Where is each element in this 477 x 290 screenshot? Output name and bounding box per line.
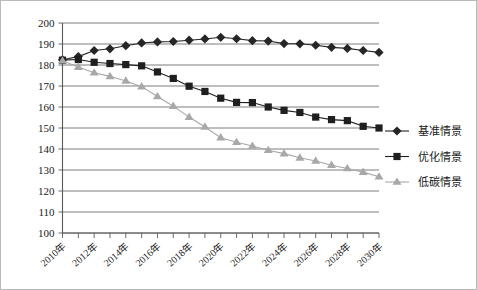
data-point-square [170,75,177,82]
data-point-triangle [169,102,178,109]
legend-label: 优化情景 [418,150,462,163]
y-axis-label: 160 [38,101,55,113]
data-point-triangle [185,112,194,119]
y-axis [59,23,63,233]
y-axis-label: 130 [38,164,55,176]
gridlines [63,23,380,233]
data-point-diamond [169,37,178,46]
data-point-square [296,109,303,116]
data-point-square [122,61,129,68]
y-axis-label: 100 [38,227,55,239]
data-point-square [233,99,240,106]
data-point-diamond [216,33,225,42]
data-point-diamond [295,39,304,48]
data-point-diamond [359,46,368,55]
y-axis-label: 190 [38,38,55,50]
data-point-diamond [90,46,99,55]
y-axis-label: 170 [38,80,55,92]
y-axis-label: 140 [38,143,55,155]
data-point-triangle [216,133,225,140]
data-point-diamond [185,36,194,45]
data-point-square [91,59,98,66]
data-point-square [154,68,161,75]
x-axis-label: 2020年 [196,240,226,269]
data-point-square [344,117,351,124]
x-axis-label: 2026年 [291,240,321,269]
data-point-diamond [279,39,288,48]
series-2 [59,56,383,132]
data-point-diamond [343,44,352,53]
data-point-triangle [200,122,209,129]
data-point-diamond [153,37,162,46]
x-axis [63,233,380,238]
data-point-square [106,60,113,67]
y-axis-label: 150 [38,122,55,134]
data-series-group [58,33,384,180]
data-point-diamond [311,41,320,50]
data-point-diamond [374,48,383,57]
y-axis-label: 110 [38,206,55,218]
data-point-square [138,62,145,69]
data-point-triangle [393,177,402,184]
x-axis-label: 2022年 [227,240,257,269]
y-axis-label: 200 [38,17,55,29]
x-axis-tick-labels: 2010年2012年2014年2016年2018年2020年2022年2024年… [38,240,385,269]
data-point-square [393,153,400,160]
legend-label: 基准情景 [418,125,462,137]
data-point-diamond [121,41,130,50]
data-point-diamond [232,34,241,43]
x-axis-label: 2012年 [69,240,99,269]
x-axis-label: 2028年 [322,240,352,269]
chart-legend: 基准情景优化情景低碳情景 [385,125,462,188]
data-point-square [75,56,82,63]
data-point-square [186,83,193,90]
x-axis-label: 2030年 [354,240,384,269]
data-point-square [201,88,208,95]
data-point-triangle [153,92,162,99]
legend-label: 低碳情景 [418,175,462,188]
data-point-diamond [137,38,146,47]
data-point-diamond [200,34,209,43]
data-point-square [217,95,224,102]
data-point-diamond [105,44,114,53]
x-axis-label: 2014年 [101,240,131,269]
data-point-square [280,107,287,114]
data-point-square [375,124,382,131]
data-point-square [312,113,319,120]
data-point-square [328,116,335,123]
data-point-diamond [392,126,401,135]
data-point-square [249,99,256,106]
data-point-square [360,123,367,130]
y-axis-label: 120 [38,185,55,197]
line-chart: 200190180170160150140130120110100 2010年2… [1,1,477,290]
x-axis-label: 2016年 [132,240,162,269]
data-point-square [265,103,272,110]
y-axis-label: 180 [38,59,55,71]
x-axis-label: 2024年 [259,240,289,269]
series-1 [58,33,384,65]
y-axis-tick-labels: 200190180170160150140130120110100 [38,17,55,239]
x-axis-label: 2010年 [38,240,68,269]
x-axis-label: 2018年 [164,240,194,269]
chart-container: 200190180170160150140130120110100 2010年2… [0,0,477,290]
